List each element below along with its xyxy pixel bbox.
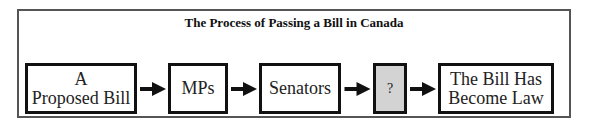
step-label-line2: Become Law xyxy=(448,89,543,108)
step-senators: Senators xyxy=(259,63,341,114)
step-label: ? xyxy=(387,79,393,98)
step-label-line1: The Bill Has xyxy=(448,70,543,89)
step-became-law: The Bill Has Become Law xyxy=(438,63,554,114)
arrow-right-icon xyxy=(410,82,436,96)
diagram-title: The Process of Passing a Bill in Canada xyxy=(19,15,569,31)
step-proposed-bill: A Proposed Bill xyxy=(25,63,137,114)
arrow-right-icon xyxy=(140,82,166,96)
step-mps: MPs xyxy=(168,63,228,114)
step-label-line1: A xyxy=(32,70,131,89)
arrow-right-icon xyxy=(344,82,371,96)
step-label: MPs xyxy=(181,79,214,98)
step-label: Senators xyxy=(269,79,331,98)
step-label-line2: Proposed Bill xyxy=(32,89,131,108)
arrow-right-icon xyxy=(231,82,257,96)
step-unknown: ? xyxy=(373,63,407,114)
